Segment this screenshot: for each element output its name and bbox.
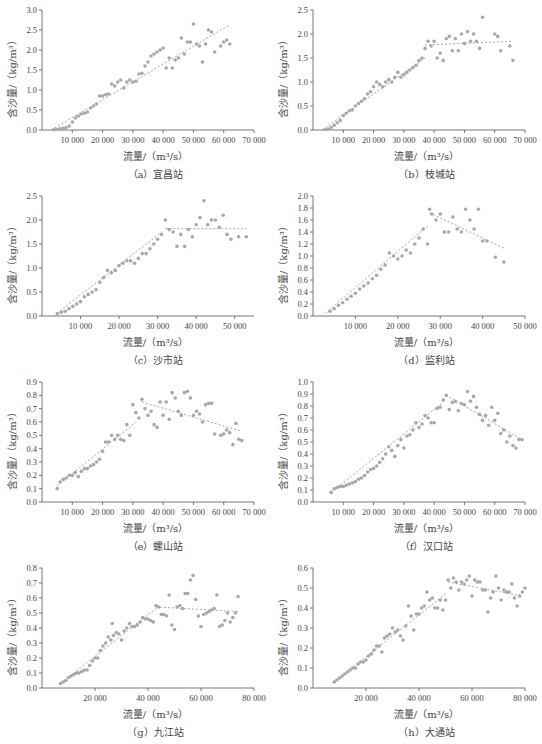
y-tick-label: 1.2: [297, 239, 308, 249]
data-point: [423, 414, 427, 418]
y-tick-label: 1.0: [297, 251, 308, 261]
data-point: [381, 457, 385, 461]
data-point: [113, 269, 117, 273]
y-tick-label: 0.0: [26, 311, 37, 321]
data-point: [493, 419, 497, 423]
y-tick-label: 0.5: [26, 430, 37, 440]
y-tick-label: 2.0: [26, 45, 37, 55]
data-point: [432, 39, 436, 43]
data-point: [379, 267, 383, 271]
x-tick-label: 10 000: [332, 135, 355, 145]
data-point: [391, 626, 395, 630]
data-point: [183, 52, 187, 56]
data-point: [222, 40, 226, 44]
x-tick-label: 30 000: [429, 321, 452, 331]
data-point: [125, 259, 129, 263]
y-tick-label: 0.6: [297, 563, 308, 573]
y-tick-label: 1.6: [297, 215, 308, 225]
data-point: [393, 75, 397, 79]
data-point: [83, 295, 87, 299]
y-tick-label: 0.0: [297, 311, 308, 321]
data-point: [220, 623, 224, 627]
data-point: [122, 629, 126, 633]
data-point: [201, 420, 205, 424]
axes: [313, 382, 525, 502]
data-point: [341, 301, 345, 305]
y-tick-label: 0.2: [297, 473, 308, 483]
data-point: [167, 228, 171, 232]
x-tick-label: 20 000: [107, 321, 130, 331]
data-point: [366, 470, 370, 474]
data-point: [122, 439, 126, 443]
data-point: [423, 47, 427, 51]
data-point: [179, 233, 183, 237]
data-point: [158, 400, 162, 404]
data-point: [161, 414, 165, 418]
data-point: [454, 399, 458, 403]
data-point: [213, 432, 217, 436]
data-point: [363, 97, 367, 101]
y-axis-label: 含沙量/（kg/m³）: [4, 593, 19, 676]
data-point: [79, 300, 83, 304]
data-point: [472, 32, 476, 36]
data-point: [189, 578, 193, 582]
data-point: [194, 223, 198, 227]
data-point: [404, 624, 408, 628]
data-point: [463, 42, 467, 46]
data-point: [226, 611, 230, 615]
data-point: [198, 412, 202, 416]
y-tick-label: 1.0: [26, 263, 37, 273]
data-point: [497, 586, 501, 590]
y-axis-label: 含沙量/（kg/m³）: [275, 407, 290, 490]
data-point: [420, 56, 424, 60]
data-point: [470, 594, 474, 598]
data-point: [55, 487, 59, 491]
data-point: [494, 574, 498, 578]
data-point: [454, 580, 458, 584]
data-point: [106, 269, 110, 273]
x-axis-label: 流量/（m³/s）: [0, 520, 271, 535]
y-tick-label: 0.0: [297, 683, 308, 693]
y-tick-label: 0.0: [297, 125, 308, 135]
data-point: [481, 15, 485, 19]
data-point: [178, 604, 182, 608]
data-point: [204, 42, 208, 46]
data-point: [375, 80, 379, 84]
panel-caption: （f）汉口站: [271, 538, 542, 553]
x-tick-label: 10 000: [344, 321, 367, 331]
data-point: [377, 644, 381, 648]
data-point: [195, 410, 199, 414]
data-point: [59, 310, 63, 314]
data-point: [231, 616, 235, 620]
data-point: [191, 574, 195, 578]
data-point: [228, 620, 232, 624]
data-point: [387, 445, 391, 449]
data-point: [375, 273, 379, 277]
x-tick-label: 40 000: [151, 135, 174, 145]
x-tick-label: 40 000: [407, 693, 430, 703]
data-point: [64, 476, 68, 480]
y-tick-label: 0.1: [26, 484, 37, 494]
data-point: [390, 449, 394, 453]
data-point: [411, 428, 415, 432]
data-point: [366, 281, 370, 285]
x-tick-label: 70 000: [513, 507, 536, 517]
data-point: [236, 595, 240, 599]
x-tick-label: 30 000: [121, 135, 144, 145]
y-tick-label: 0.8: [297, 401, 308, 411]
data-point: [399, 75, 403, 79]
data-point: [94, 288, 98, 292]
data-point: [510, 582, 514, 586]
data-point: [152, 620, 156, 624]
data-point: [107, 440, 111, 444]
data-point: [225, 233, 229, 237]
y-tick-label: 0.7: [26, 404, 37, 414]
data-point: [475, 405, 479, 409]
data-point: [222, 432, 226, 436]
data-point: [421, 227, 425, 231]
y-tick-label: 0.4: [26, 623, 37, 633]
data-point: [399, 438, 403, 442]
data-point: [372, 85, 376, 89]
data-point: [441, 608, 445, 612]
data-point: [443, 230, 447, 234]
